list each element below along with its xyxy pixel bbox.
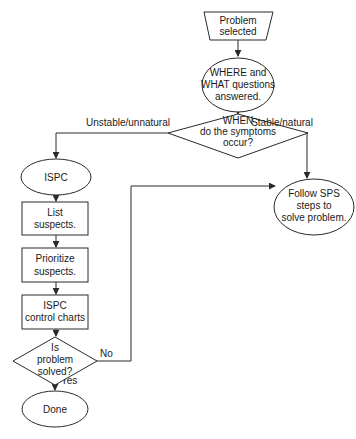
node-ispc-control-charts: ISPC control charts (22, 295, 88, 329)
node-problem-selected: Problem selected (204, 12, 273, 40)
edge-label-stable: Stable/natural (251, 117, 313, 128)
label: solve problem. (281, 212, 346, 223)
label: steps to (296, 200, 331, 211)
label: ISPC (44, 172, 67, 183)
label: WHEN (223, 115, 254, 126)
label: problem (37, 354, 73, 365)
label: ISPC (43, 300, 66, 311)
label: occur? (223, 137, 253, 148)
node-done: Done (22, 391, 88, 427)
label: Follow SPS (288, 188, 340, 199)
node-solved-decision: Is problem solved? (13, 337, 97, 385)
label: Done (43, 404, 67, 415)
node-ispc: ISPC (21, 159, 91, 195)
label: control charts (25, 312, 85, 323)
label: suspects. (34, 266, 76, 277)
edge-label-unstable: Unstable/unnatural (86, 117, 170, 128)
label: Is (51, 342, 59, 353)
arrow-unstable (56, 133, 168, 158)
flowchart: Problem selected WHERE and WHAT question… (0, 0, 356, 439)
edge-label-no: No (100, 348, 113, 359)
label: suspects. (34, 219, 76, 230)
node-follow-sps: Follow SPS steps to solve problem. (274, 179, 354, 235)
arrow-no (97, 186, 275, 361)
label: selected (219, 26, 256, 37)
node-prioritize-suspects: Prioritize suspects. (22, 248, 88, 282)
label: answered. (215, 91, 261, 102)
label: List (47, 207, 63, 218)
label: Problem (219, 15, 256, 26)
arrow-stable (307, 133, 308, 178)
node-where-what-answered: WHERE and WHAT questions answered. (201, 58, 275, 112)
label: WHERE and (210, 67, 267, 78)
label: Prioritize (36, 253, 75, 264)
label: solved? (38, 366, 73, 377)
node-list-suspects: List suspects. (22, 202, 88, 235)
label: WHAT questions (201, 79, 275, 90)
